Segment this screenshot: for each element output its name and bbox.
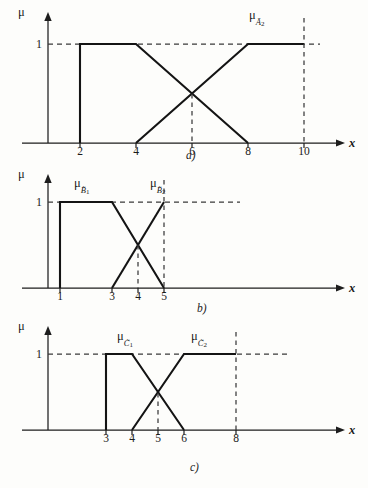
panel-c-label-mu-C2: μC̃2 xyxy=(191,329,207,346)
panel-c-x-arrowhead xyxy=(336,426,345,433)
panel-b-y-arrowhead xyxy=(44,174,51,183)
panel-tag-a: a) xyxy=(186,149,196,161)
panel-b-ytick-label-1: 1 xyxy=(28,195,42,210)
panel-c-xtick-label-5: 5 xyxy=(155,433,161,445)
panel-c-x-axis-label: x xyxy=(349,423,355,438)
panel-c-xtick-label-3: 3 xyxy=(103,433,109,445)
panel-c-label2-mu-glyph: μ xyxy=(191,329,198,343)
panel-a-label-mu-glyph: μ xyxy=(249,8,256,22)
panel-tag-c: c) xyxy=(190,461,199,473)
panel-c-curve-mu-C2 xyxy=(132,354,236,430)
panel-b-curve-mu-B1 xyxy=(60,202,164,288)
panel-c: μ x 1 μC̃1 μC̃2 3 4 5 6 8 xyxy=(0,310,368,470)
fuzzy-membership-figure: μ x 1 μÃ2 2 4 6 8 10 μ x 1 xyxy=(0,0,368,488)
panel-a-y-arrowhead xyxy=(44,12,51,21)
panel-b-label2-mu-glyph: μ xyxy=(150,176,157,190)
panel-a-label-mu-A2: μÃ2 xyxy=(249,8,264,25)
panel-b-label-mu-B2: μB̃2 xyxy=(150,176,165,193)
panel-b-label-mu-B1: μB̃1 xyxy=(74,176,89,193)
panel-c-xtick-label-4: 4 xyxy=(129,433,135,445)
panel-c-label1-mu-glyph: μ xyxy=(117,329,124,343)
panel-c-curve-mu-C1 xyxy=(106,354,184,430)
panel-b-x-axis-label: x xyxy=(349,281,355,296)
panel-c-label1-index: 1 xyxy=(129,341,133,349)
panel-a-plot xyxy=(0,0,368,155)
panel-a-x-arrowhead xyxy=(336,139,345,146)
panel-a-y-axis-label: μ xyxy=(18,5,25,20)
panel-b-label1-index: 1 xyxy=(86,188,90,196)
panel-b-y-axis-label: μ xyxy=(18,167,25,182)
panel-a-x-axis-label: x xyxy=(349,136,355,151)
panel-c-y-axis-label: μ xyxy=(18,319,25,334)
panel-a-label-index: 2 xyxy=(261,20,265,28)
panel-c-xtick-label-8: 8 xyxy=(233,433,239,445)
panel-a-curve-mu-A2 xyxy=(136,44,304,143)
panel-a: μ x 1 μÃ2 2 4 6 8 10 xyxy=(0,0,368,155)
panel-c-label-mu-C1: μC̃1 xyxy=(117,329,133,346)
panel-c-ytick-label-1: 1 xyxy=(28,347,42,362)
panel-b-label1-mu-glyph: μ xyxy=(74,176,81,190)
panel-b-xtick-label-3: 3 xyxy=(109,291,115,303)
panel-tag-b: b) xyxy=(197,302,207,314)
panel-b-xtick-label-4: 4 xyxy=(135,291,141,303)
panel-b-xtick-label-1: 1 xyxy=(57,291,63,303)
panel-c-plot xyxy=(0,310,368,470)
panel-c-label2-index: 2 xyxy=(203,341,207,349)
panel-b-x-arrowhead xyxy=(336,284,345,291)
panel-a-ytick-label-1: 1 xyxy=(28,37,42,52)
panel-c-xtick-label-6: 6 xyxy=(181,433,187,445)
panel-b-plot xyxy=(0,155,368,310)
panel-b: μ x 1 μB̃1 μB̃2 1 3 4 5 xyxy=(0,155,368,310)
panel-b-label2-index: 2 xyxy=(162,188,166,196)
panel-b-xtick-label-5: 5 xyxy=(161,291,167,303)
panel-a-curve-mu-A1 xyxy=(80,44,248,143)
panel-c-y-arrowhead xyxy=(44,326,51,335)
